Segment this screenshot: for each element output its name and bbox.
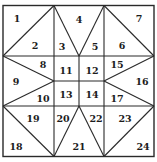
quilt-diagram: 123456789101112131415161718192021222324 xyxy=(0,0,157,162)
piece-label-7: 7 xyxy=(136,13,143,24)
piece-label-5: 5 xyxy=(92,41,99,52)
piece-label-16: 16 xyxy=(135,76,149,87)
piece-label-9: 9 xyxy=(13,76,20,87)
piece-label-6: 6 xyxy=(119,40,126,51)
piece-label-10: 10 xyxy=(36,93,50,104)
piece-label-4: 4 xyxy=(76,14,83,25)
piece-label-20: 20 xyxy=(56,113,70,124)
piece-label-1: 1 xyxy=(14,13,21,24)
piece-label-11: 11 xyxy=(59,65,72,76)
piece-label-3: 3 xyxy=(59,41,66,52)
piece-label-2: 2 xyxy=(32,40,39,51)
piece-label-23: 23 xyxy=(118,113,131,124)
piece-label-19: 19 xyxy=(26,113,40,124)
piece-label-15: 15 xyxy=(110,59,123,70)
grid-lines xyxy=(3,6,154,157)
piece-label-14: 14 xyxy=(85,89,99,100)
piece-label-8: 8 xyxy=(40,59,47,70)
piece-label-17: 17 xyxy=(110,93,123,104)
piece-label-21: 21 xyxy=(72,141,85,152)
quilt-svg: 123456789101112131415161718192021222324 xyxy=(0,0,157,162)
piece-label-24: 24 xyxy=(136,141,150,152)
piece-label-22: 22 xyxy=(89,113,102,124)
piece-label-18: 18 xyxy=(9,141,23,152)
piece-label-13: 13 xyxy=(59,89,72,100)
piece-label-12: 12 xyxy=(85,65,98,76)
